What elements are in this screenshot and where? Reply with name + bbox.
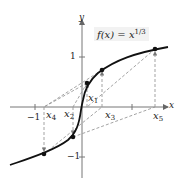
tick-label-x-neg1: −1 [27, 113, 40, 122]
label-x1: x1 [88, 93, 98, 105]
point-x3 [100, 68, 105, 73]
tick-label-y-pos1: 1 [70, 52, 76, 61]
curve-points [42, 47, 158, 157]
x-axis-label: x [169, 101, 174, 110]
cube-root-diagram [0, 0, 183, 181]
point-x1 [85, 81, 90, 86]
label-x4: x4 [46, 110, 56, 122]
point-x5 [153, 47, 158, 52]
y-axis-label: y [79, 13, 84, 22]
label-x2: x2 [64, 109, 74, 121]
tick-label-y-neg1: −1 [67, 152, 80, 161]
function-title: f(x) = x1/3 [94, 27, 149, 41]
label-x3: x3 [105, 110, 115, 122]
iteration-lines [44, 49, 155, 154]
point-x4 [42, 152, 47, 157]
point-x2 [71, 135, 76, 140]
label-x5: x5 [153, 111, 163, 123]
cube-root-curve [10, 47, 168, 165]
